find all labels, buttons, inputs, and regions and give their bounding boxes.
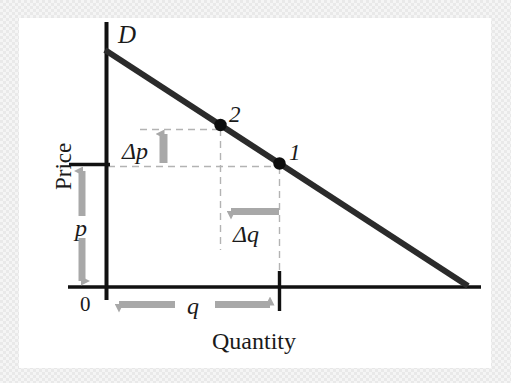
y-axis-label: Price (52, 143, 75, 190)
demand-curve-group (105, 50, 468, 286)
price-level-label: p (75, 216, 87, 240)
data-point-2[interactable] (214, 119, 226, 131)
data-point-1[interactable] (273, 157, 285, 169)
demand-curve-line (105, 50, 468, 286)
origin-label: 0 (80, 294, 91, 315)
delta-quantity-label: Δq (233, 222, 259, 246)
quantity-level-label: q (187, 294, 199, 318)
data-point-2-label: 2 (229, 103, 241, 126)
data-point-1-label: 1 (289, 141, 301, 164)
x-axis-label: Quantity (212, 329, 296, 353)
diagram-canvas (0, 0, 511, 383)
measurement-arrows (82, 134, 279, 305)
delta-price-label: Δp (122, 139, 148, 163)
demand-curve-label: D (118, 22, 136, 47)
demand-curve-figure: D Price Quantity 0 2 1 p q Δp Δq (0, 0, 511, 383)
